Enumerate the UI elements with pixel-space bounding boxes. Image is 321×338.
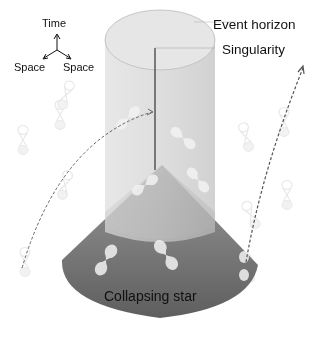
axis-space-right-label: Space [63, 61, 94, 73]
axis-space-left-label: Space [14, 61, 45, 73]
event-horizon-label: Event horizon [213, 17, 296, 32]
spacetime-axes [43, 34, 71, 59]
axis-time-label: Time [42, 17, 66, 29]
escaping-worldline [246, 68, 303, 262]
singularity-label: Singularity [222, 42, 285, 57]
collapsing-star-label: Collapsing star [104, 288, 197, 304]
